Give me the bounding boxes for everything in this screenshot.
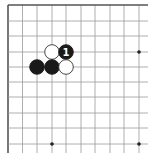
white-stone[interactable] <box>45 45 60 60</box>
go-board[interactable]: 1 <box>0 0 153 164</box>
star-point-icon <box>137 50 141 54</box>
star-point-icon <box>137 142 141 146</box>
stones-layer: 1 <box>30 45 74 75</box>
white-stone[interactable] <box>59 60 74 75</box>
black-stone[interactable] <box>30 60 45 75</box>
move-number-label: 1 <box>63 47 70 58</box>
board-grid <box>8 5 148 153</box>
star-point-icon <box>50 142 54 146</box>
black-stone[interactable]: 1 <box>59 45 74 60</box>
black-stone[interactable] <box>45 60 60 75</box>
